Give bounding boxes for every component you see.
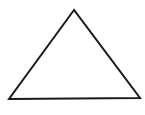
triangle-shape — [9, 10, 140, 99]
diagram-canvas — [0, 0, 145, 115]
triangle-diagram — [0, 0, 145, 115]
